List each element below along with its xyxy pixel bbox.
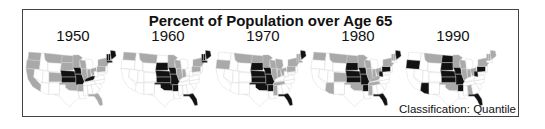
state-mi [85, 59, 93, 70]
state-ma [202, 61, 208, 63]
state-ut [137, 70, 144, 82]
classification-note: Classification: Quantile [399, 103, 516, 115]
state-nm [429, 83, 440, 95]
state-ks [251, 77, 265, 83]
state-ne [156, 70, 171, 77]
us-choropleth-map [25, 47, 121, 109]
state-vt [202, 54, 204, 61]
year-label: 1990 [405, 27, 501, 44]
state-mi [275, 59, 283, 70]
state-ms [84, 86, 88, 96]
state-me [395, 50, 401, 60]
state-az [135, 83, 144, 95]
state-md [383, 72, 391, 74]
state-co [334, 72, 346, 82]
state-nj [296, 66, 298, 72]
state-co [144, 72, 156, 82]
state-ar [363, 85, 369, 92]
state-nh [394, 54, 396, 61]
year-label: 1980 [310, 27, 406, 44]
state-ma [107, 61, 113, 63]
state-wa [123, 52, 136, 61]
state-nh [489, 54, 491, 61]
state-ar [268, 85, 274, 92]
year-label: 1970 [215, 27, 311, 44]
state-fl [183, 93, 197, 105]
state-sd [346, 63, 358, 71]
state-co [429, 72, 441, 82]
state-ms [179, 86, 183, 96]
state-nd [251, 55, 263, 63]
map-panel-1970: 1970 [215, 27, 311, 109]
state-me [205, 50, 211, 60]
state-ks [61, 77, 75, 83]
state-nj [106, 66, 108, 72]
state-nm [144, 83, 155, 95]
state-or [406, 60, 420, 70]
state-ut [327, 70, 334, 82]
state-wi [270, 60, 277, 69]
state-or [121, 60, 135, 70]
map-panel-1980: 1980 [310, 27, 406, 109]
state-wy [48, 63, 61, 73]
state-nm [49, 83, 60, 95]
state-sd [156, 63, 168, 71]
state-az [420, 83, 429, 95]
state-vt [392, 54, 394, 61]
state-vt [487, 54, 489, 61]
state-or [311, 60, 325, 70]
state-wy [428, 63, 441, 73]
state-wi [460, 60, 467, 69]
state-nj [391, 66, 393, 72]
state-nd [156, 55, 168, 63]
state-pa [192, 66, 201, 72]
state-ma [487, 61, 493, 63]
state-mi [465, 59, 473, 70]
state-ma [297, 61, 303, 63]
us-choropleth-map [215, 47, 311, 109]
state-wi [175, 60, 182, 69]
state-nm [334, 83, 345, 95]
state-fl [88, 93, 102, 105]
state-az [230, 83, 239, 95]
state-fl [278, 93, 292, 105]
state-ne [61, 70, 76, 77]
state-vt [107, 54, 109, 61]
state-az [40, 83, 49, 95]
state-ne [441, 70, 456, 77]
state-pa [287, 66, 296, 72]
state-md [288, 72, 296, 74]
state-ks [346, 77, 360, 83]
state-ar [78, 85, 84, 92]
state-ms [274, 86, 278, 96]
state-fl [373, 93, 387, 105]
state-ut [422, 70, 429, 82]
state-me [300, 50, 306, 60]
state-nm [239, 83, 250, 95]
state-md [98, 72, 106, 74]
state-ma [392, 61, 398, 63]
state-pa [382, 66, 391, 72]
state-me [110, 50, 116, 60]
state-wa [28, 52, 41, 61]
state-nj [486, 66, 488, 72]
state-or [26, 60, 40, 70]
state-sd [251, 63, 263, 71]
state-me [490, 50, 496, 60]
state-pa [477, 66, 486, 72]
map-panel-1990: 1990 [405, 27, 501, 109]
state-wi [80, 60, 87, 69]
state-wy [238, 63, 251, 73]
state-wa [408, 52, 421, 61]
year-label: 1960 [120, 27, 216, 44]
state-ks [441, 77, 455, 83]
year-label: 1950 [25, 27, 121, 44]
state-ut [232, 70, 239, 82]
state-ut [42, 70, 49, 82]
state-co [239, 72, 251, 82]
state-wi [365, 60, 372, 69]
state-mi [370, 59, 378, 70]
state-vt [297, 54, 299, 61]
state-ne [346, 70, 361, 77]
state-nd [441, 55, 453, 63]
